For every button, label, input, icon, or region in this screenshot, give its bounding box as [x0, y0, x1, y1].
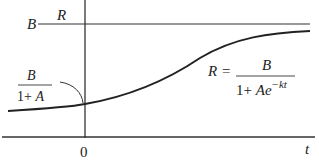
asymptote-label: B: [27, 16, 36, 32]
intercept-denominator: 1+ A: [17, 89, 44, 104]
intercept-numerator: B: [27, 68, 36, 83]
equation-lhs: R =: [207, 63, 231, 79]
intercept-callout-arc: [60, 82, 83, 103]
origin-label: 0: [80, 144, 88, 160]
equation-denominator: 1+ Ae−kt: [236, 78, 288, 98]
logistic-diagram: R B B 1+ A R = B 1+ Ae−kt 0 t: [0, 0, 319, 168]
r-axis-label: R: [56, 7, 66, 23]
t-axis-label: t: [305, 141, 310, 157]
equation-numerator: B: [262, 57, 271, 73]
